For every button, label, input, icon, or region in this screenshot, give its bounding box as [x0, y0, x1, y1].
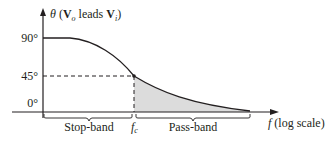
y-tick-0: 0°: [27, 96, 38, 110]
cutoff-frequency-label: fc: [131, 120, 138, 135]
y-tick-45: 45°: [21, 69, 38, 83]
phase-response-diagram: θ (Vo leads Vi) 90° 45° 0° Stop-band Pas…: [0, 0, 333, 143]
x-axis-arrow-icon: [270, 109, 279, 115]
y-tick-90: 90°: [21, 31, 38, 45]
pass-band-label: Pass-band: [169, 120, 218, 134]
y-axis-arrow-icon: [40, 8, 46, 16]
x-axis-title: f (log scale): [268, 116, 325, 130]
stop-band-label: Stop-band: [64, 120, 113, 134]
pass-band-shaded-area: [134, 76, 250, 112]
y-axis-title: θ (Vo leads Vi): [50, 7, 121, 23]
cutoff-point: [132, 74, 136, 78]
